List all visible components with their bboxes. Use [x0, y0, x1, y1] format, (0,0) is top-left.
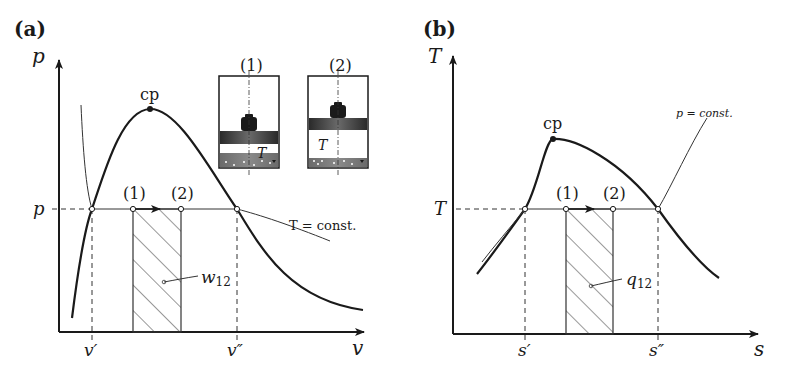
piston-cylinder-inset-1: (1) T	[219, 56, 279, 175]
state-1-label: (1)	[556, 184, 579, 203]
critical-point-label: cp	[543, 114, 562, 133]
p-level-label: p	[33, 198, 45, 219]
s-double-prime-label: s″	[649, 340, 665, 360]
s-double-prime-point	[655, 206, 660, 211]
y-axis-label: p	[32, 44, 45, 68]
area-label-q12: q12	[626, 269, 652, 291]
s-prime-label: s′	[518, 340, 531, 360]
state-1-point	[130, 206, 135, 211]
panel-b-label: (b)	[423, 17, 456, 41]
v-prime-point	[89, 206, 94, 211]
inset-1-title: (1)	[240, 56, 263, 75]
critical-point-marker	[147, 106, 153, 112]
heat-area-q12	[566, 209, 613, 334]
s-prime-point	[522, 206, 527, 211]
isotherm-label: T = const.	[289, 218, 356, 233]
critical-point-label: cp	[140, 85, 159, 104]
piston-cylinder-inset-2: (2) T	[308, 56, 368, 175]
work-area-w12	[133, 209, 181, 332]
state-2-point	[178, 206, 183, 211]
critical-point-marker	[550, 136, 556, 142]
y-axis-label: T	[428, 44, 443, 68]
panel-a: (a) p v p v′ v″ cp (1) (2) T = const.	[14, 17, 368, 360]
t-level-label: T	[434, 198, 448, 219]
v-prime-label: v′	[84, 340, 98, 360]
isobar-label: p = const.	[676, 107, 733, 120]
state-1-label: (1)	[123, 184, 146, 203]
panel-a-label: (a)	[14, 17, 46, 41]
state-2-label: (2)	[603, 184, 626, 203]
v-double-prime-point	[234, 206, 239, 211]
diagram-canvas: (a) p v p v′ v″ cp (1) (2) T = const.	[0, 0, 790, 376]
x-axis-label: v	[352, 336, 364, 360]
v-double-prime-label: v″	[227, 340, 244, 360]
state-2-label: (2)	[171, 184, 194, 203]
panel-b: (b) T s T s′ s″ cp (1) (2) p = const. q1…	[423, 17, 764, 361]
state-1-point	[563, 206, 568, 211]
inset-2-title: (2)	[329, 56, 352, 75]
state-2-point	[610, 206, 615, 211]
area-label-w12: w12	[201, 267, 231, 289]
x-axis-label: s	[754, 337, 764, 361]
